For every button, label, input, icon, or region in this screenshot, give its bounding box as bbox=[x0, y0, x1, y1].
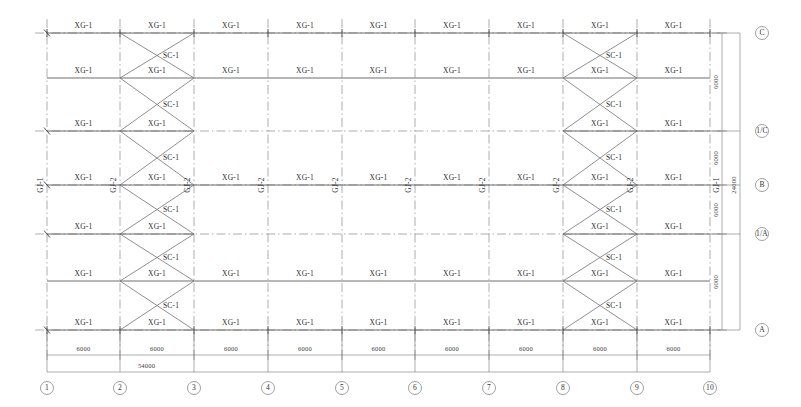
purlin-label: XG-1 bbox=[75, 22, 93, 30]
grid-bubble-label: 5 bbox=[340, 384, 344, 392]
grid-bubble-label: 9 bbox=[635, 384, 639, 392]
brace-label: SC-1 bbox=[606, 254, 622, 262]
brace-label: SC-1 bbox=[606, 206, 622, 214]
purlin-label: XG-1 bbox=[591, 174, 609, 182]
frame-label-GJ-1: GJ-1 bbox=[37, 177, 45, 192]
axis-bubble-label: A bbox=[759, 326, 765, 334]
purlin-label: XG-1 bbox=[665, 67, 683, 75]
grid-bubble-label: 1 bbox=[45, 384, 49, 392]
purlin-label: XG-1 bbox=[370, 319, 388, 327]
grid-bubble-label: 7 bbox=[487, 384, 491, 392]
axis-bubble-label: 1/C bbox=[756, 127, 767, 135]
axis-bubble-label: 1/A bbox=[756, 230, 768, 238]
frame-label-GJ-2: GJ-2 bbox=[110, 177, 118, 192]
purlin-label: XG-1 bbox=[75, 174, 93, 182]
purlin-label: XG-1 bbox=[222, 270, 240, 278]
bay-dimension-h: 6000 bbox=[519, 346, 533, 353]
purlin-label: XG-1 bbox=[591, 270, 609, 278]
purlin-label: XG-1 bbox=[222, 174, 240, 182]
purlin-label: XG-1 bbox=[591, 22, 609, 30]
purlin-label: XG-1 bbox=[148, 22, 166, 30]
purlin-label: XG-1 bbox=[370, 270, 388, 278]
purlin-label: XG-1 bbox=[296, 174, 314, 182]
brace-label: SC-1 bbox=[163, 206, 179, 214]
purlin-label: XG-1 bbox=[370, 174, 388, 182]
purlin-label: XG-1 bbox=[665, 319, 683, 327]
purlin-label: XG-1 bbox=[296, 67, 314, 75]
purlin-label: XG-1 bbox=[591, 120, 609, 128]
brace-label: SC-1 bbox=[606, 154, 622, 162]
purlin-label: XG-1 bbox=[443, 270, 461, 278]
purlin-label: XG-1 bbox=[148, 319, 166, 327]
purlin-label: XG-1 bbox=[517, 22, 535, 30]
purlin-label: XG-1 bbox=[222, 319, 240, 327]
drawing-sheet: XG-1XG-1XG-1XG-1XG-1XG-1XG-1XG-1XG-1XG-1… bbox=[0, 0, 801, 407]
purlin-label: XG-1 bbox=[443, 319, 461, 327]
purlin-label: XG-1 bbox=[75, 319, 93, 327]
purlin-label: XG-1 bbox=[443, 174, 461, 182]
purlin-label: XG-1 bbox=[517, 270, 535, 278]
bay-dimension-v: 6000 bbox=[713, 75, 720, 89]
purlin-label: XG-1 bbox=[148, 174, 166, 182]
structural-plan-svg bbox=[0, 0, 801, 407]
overall-dimension-h: 54000 bbox=[138, 363, 155, 370]
grid-bubble-label: 3 bbox=[192, 384, 196, 392]
purlin-label: XG-1 bbox=[443, 67, 461, 75]
frame-label-GJ-2: GJ-2 bbox=[258, 177, 266, 192]
frame-label-GJ-2: GJ-2 bbox=[184, 177, 192, 192]
purlin-label: XG-1 bbox=[370, 67, 388, 75]
purlin-label: XG-1 bbox=[517, 174, 535, 182]
grid-bubble-label: 2 bbox=[118, 384, 122, 392]
grid-bubble-label: 10 bbox=[706, 384, 714, 392]
purlin-label: XG-1 bbox=[148, 270, 166, 278]
bay-dimension-h: 6000 bbox=[150, 346, 164, 353]
purlin-label: XG-1 bbox=[665, 223, 683, 231]
brace-label: SC-1 bbox=[163, 254, 179, 262]
bay-dimension-h: 6000 bbox=[298, 346, 312, 353]
purlin-label: XG-1 bbox=[75, 270, 93, 278]
axis-bubble-label: C bbox=[759, 29, 764, 37]
brace-label: SC-1 bbox=[606, 101, 622, 109]
brace-label: SC-1 bbox=[163, 101, 179, 109]
purlin-label: XG-1 bbox=[148, 67, 166, 75]
brace-label: SC-1 bbox=[163, 52, 179, 60]
purlin-label: XG-1 bbox=[665, 22, 683, 30]
purlin-label: XG-1 bbox=[296, 319, 314, 327]
purlin-label: XG-1 bbox=[296, 22, 314, 30]
brace-label: SC-1 bbox=[606, 52, 622, 60]
frame-label-GJ-2: GJ-2 bbox=[405, 177, 413, 192]
bay-dimension-h: 6000 bbox=[667, 346, 681, 353]
brace-label: SC-1 bbox=[606, 302, 622, 310]
axis-bubble-label: B bbox=[759, 181, 764, 189]
purlin-label: XG-1 bbox=[148, 223, 166, 231]
bay-dimension-v: 6000 bbox=[713, 151, 720, 165]
bay-dimension-v: 6000 bbox=[713, 275, 720, 289]
purlin-label: XG-1 bbox=[591, 319, 609, 327]
axis-bubble-layer bbox=[41, 27, 769, 395]
purlin-label: XG-1 bbox=[591, 67, 609, 75]
purlin-label: XG-1 bbox=[517, 319, 535, 327]
purlin-label: XG-1 bbox=[148, 120, 166, 128]
purlin-label: XG-1 bbox=[443, 22, 461, 30]
bay-dimension-h: 6000 bbox=[224, 346, 238, 353]
frame-label-GJ-2: GJ-2 bbox=[479, 177, 487, 192]
bay-dimension-h: 6000 bbox=[445, 346, 459, 353]
brace-label: SC-1 bbox=[163, 302, 179, 310]
bay-dimension-h: 6000 bbox=[372, 346, 386, 353]
grid-bubble-label: 8 bbox=[561, 384, 565, 392]
purlin-label: XG-1 bbox=[296, 270, 314, 278]
purlin-label: XG-1 bbox=[591, 223, 609, 231]
purlin-label: XG-1 bbox=[75, 67, 93, 75]
frame-label-GJ-2: GJ-2 bbox=[332, 177, 340, 192]
purlin-label: XG-1 bbox=[75, 120, 93, 128]
frame-label-GJ-2: GJ-2 bbox=[627, 177, 635, 192]
frame-label-GJ-1: GJ-1 bbox=[713, 177, 721, 192]
purlin-label: XG-1 bbox=[665, 120, 683, 128]
purlin-label: XG-1 bbox=[665, 174, 683, 182]
purlin-label: XG-1 bbox=[517, 67, 535, 75]
bay-dimension-v: 6000 bbox=[713, 203, 720, 217]
purlin-label: XG-1 bbox=[75, 223, 93, 231]
grid-bubble-label: 4 bbox=[266, 384, 270, 392]
overall-dimension-v: 24000 bbox=[731, 176, 738, 193]
bay-dimension-h: 6000 bbox=[77, 346, 91, 353]
